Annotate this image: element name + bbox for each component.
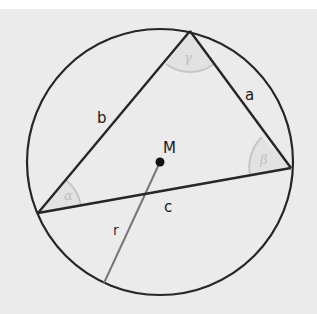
side-c-label: c [164, 198, 172, 216]
angle-alpha-label: α [64, 188, 73, 203]
center-point [156, 158, 165, 167]
radius-label: r [113, 222, 119, 238]
side-a-label: a [245, 86, 254, 104]
angle-gamma-label: γ [184, 50, 192, 65]
side-b-label: b [97, 109, 107, 127]
circumcircle-diagram: M a b c r γ β α [0, 0, 317, 314]
angle-beta-label: β [259, 152, 268, 167]
side-a [190, 31, 291, 168]
diagram-canvas: M a b c r γ β α [0, 0, 317, 314]
side-b [38, 31, 190, 213]
center-label: M [163, 139, 176, 157]
